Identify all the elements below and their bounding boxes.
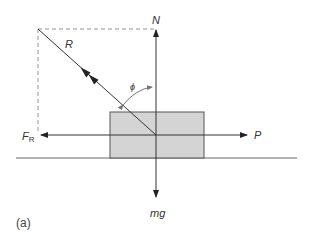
force-diagram	[0, 0, 313, 234]
weight-label: mg	[150, 208, 165, 219]
normal-force-label: N	[152, 15, 160, 26]
resultant-arrow-head-2	[89, 74, 99, 84]
angle-label: ϕ	[130, 83, 135, 92]
resultant-force-line	[38, 29, 156, 135]
push-force-label: P	[254, 130, 261, 141]
figure-caption: (a)	[16, 216, 31, 230]
resultant-arrow-head-1	[81, 67, 91, 77]
friction-force-subscript: R	[29, 135, 35, 144]
resultant-label: R	[65, 39, 73, 50]
angle-arc	[123, 87, 152, 105]
friction-force-label: FR	[22, 131, 35, 144]
friction-force-main: F	[22, 130, 29, 142]
